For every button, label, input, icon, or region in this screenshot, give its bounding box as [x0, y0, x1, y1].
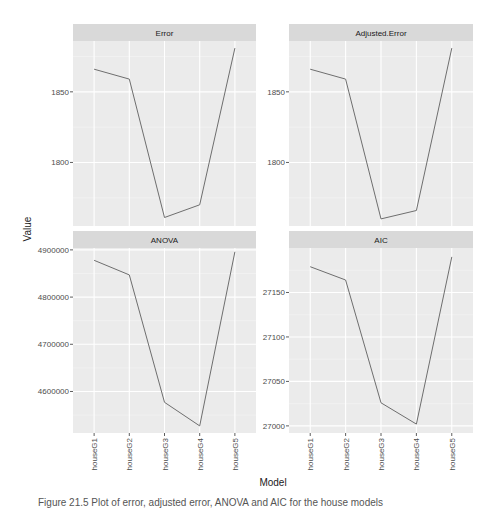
y-axis-title: Value [22, 216, 33, 241]
y-tick-label: 27100 [263, 333, 286, 342]
y-tick-label: 1850 [51, 88, 69, 97]
y-tick-label: 27050 [263, 377, 286, 386]
x-axis-title: Model [259, 477, 286, 488]
y-tick-label: 1800 [51, 158, 69, 167]
facet-panel-error: Error18001850 [51, 24, 256, 226]
y-tick-label: 1800 [267, 158, 285, 167]
y-tick-label: 4600000 [38, 387, 70, 396]
facet-strip-label: Adjusted.Error [355, 29, 406, 38]
y-tick-label: 27150 [263, 288, 286, 297]
figure-caption: Figure 21.5 Plot of error, adjusted erro… [38, 497, 383, 508]
y-tick-label: 27000 [263, 422, 286, 431]
x-tick-label: houseG4 [412, 437, 421, 470]
x-tick-label: houseG2 [125, 437, 134, 470]
x-tick-label: houseG2 [342, 437, 351, 470]
facet-panel-anova: ANOVA4600000470000048000004900000houseG1… [38, 231, 256, 470]
facet-strip-label: ANOVA [151, 236, 179, 245]
y-tick-label: 1850 [267, 88, 285, 97]
y-tick-label: 4900000 [38, 246, 70, 255]
facet-strip-label: AIC [374, 236, 388, 245]
x-tick-label: houseG3 [161, 437, 170, 470]
x-tick-label: houseG5 [448, 437, 457, 470]
x-tick-label: houseG5 [231, 437, 240, 470]
x-tick-label: houseG4 [196, 437, 205, 470]
x-tick-label: houseG1 [90, 437, 99, 470]
facet-panel-aic: AIC27000270502710027150houseG1houseG2hou… [263, 231, 473, 470]
y-tick-label: 4700000 [38, 340, 70, 349]
facet-panels: Error18001850Adjusted.Error18001850ANOVA… [38, 24, 473, 470]
x-tick-label: houseG1 [306, 437, 315, 470]
x-tick-label: houseG3 [377, 437, 386, 470]
facet-panel-adjusted-error: Adjusted.Error18001850 [267, 24, 473, 226]
facet-strip-label: Error [156, 29, 174, 38]
y-tick-label: 4800000 [38, 293, 70, 302]
